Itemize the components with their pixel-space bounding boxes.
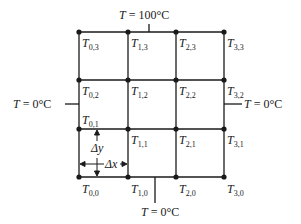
dx-label: Δx — [105, 158, 117, 170]
node-label-0-2: T0,2 — [82, 85, 99, 100]
node-label-3-2: T3,2 — [227, 85, 244, 100]
bottom-boundary-label: T = 0°C — [141, 206, 179, 218]
node-label-1-3: T1,3 — [131, 37, 148, 52]
node-label-1-1: T1,1 — [131, 134, 148, 149]
node-label-2-0: T2,0 — [179, 183, 196, 198]
node-label-3-0: T3,0 — [227, 183, 244, 198]
dx-arrow-icon — [80, 162, 127, 167]
node-label-3-3: T3,3 — [227, 37, 244, 52]
node-label-0-1: T0,1 — [82, 114, 99, 129]
dy-label: Δy — [91, 142, 103, 154]
top-boundary-label: T = 100°C — [119, 9, 169, 21]
node-label-0-0: T0,0 — [82, 183, 99, 198]
left-boundary-label: T = 0°C — [13, 98, 51, 110]
node-label-1-0: T1,0 — [131, 183, 148, 198]
grid-nodes — [76, 29, 226, 179]
node-label-2-3: T2,3 — [179, 37, 196, 52]
node-label-2-2: T2,2 — [179, 85, 196, 100]
right-boundary-label: T = 0°C — [244, 98, 282, 110]
node-label-0-3: T0,3 — [82, 37, 99, 52]
grid-diagram — [0, 0, 301, 224]
node-label-2-1: T2,1 — [179, 134, 196, 149]
node-label-1-2: T1,2 — [131, 85, 148, 100]
node-label-3-1: T3,1 — [227, 134, 244, 149]
